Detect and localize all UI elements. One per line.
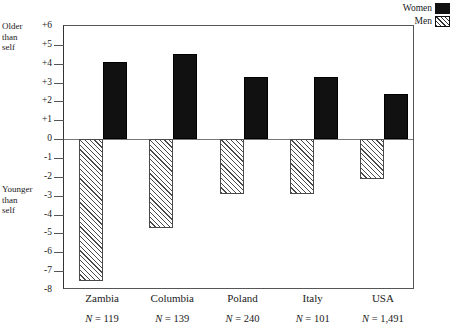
- x-axis-category-label: Italy: [274, 292, 352, 305]
- x-axis-category-label: USA: [344, 292, 422, 305]
- y-axis-tick-label: +4: [26, 59, 52, 69]
- y-axis-tick: [54, 83, 64, 84]
- y-axis-tick: [54, 64, 64, 65]
- legend-item-women: Women: [370, 2, 450, 14]
- bar-women-poland: [244, 77, 268, 139]
- y-axis-tick: [54, 139, 64, 140]
- x-axis-group-usa: USAN = 1,491: [344, 292, 422, 325]
- y-axis-tick-label: +1: [26, 115, 52, 125]
- y-axis-tick-label: +5: [26, 40, 52, 50]
- x-axis-category-label: Zambia: [63, 292, 141, 305]
- y-axis-tick-label: -4: [26, 210, 52, 220]
- x-axis-group-zambia: ZambiaN = 119: [63, 292, 141, 325]
- y-axis-tick-label: -6: [26, 247, 52, 257]
- bar-women-zambia: [103, 62, 127, 139]
- legend-label-men: Men: [415, 16, 432, 26]
- y-axis-tick-label: -8: [26, 285, 52, 295]
- bar-men-usa: [360, 139, 384, 179]
- y-axis-tick-label: +3: [26, 78, 52, 88]
- x-axis-category-label: Poland: [204, 292, 282, 305]
- x-axis-sample-size-label: N = 240: [204, 312, 282, 325]
- y-axis-tick-label: -7: [26, 266, 52, 276]
- hatched-swatch-icon: [435, 16, 450, 27]
- y-axis-tick-label: -5: [26, 228, 52, 238]
- x-axis-group-poland: PolandN = 240: [204, 292, 282, 325]
- y-axis-tick-label: -2: [26, 172, 52, 182]
- bar-men-poland: [220, 139, 244, 194]
- x-axis-sample-size-label: N = 101: [274, 312, 352, 325]
- solid-swatch-icon: [435, 3, 450, 14]
- y-axis-tick-label: +6: [26, 21, 52, 31]
- legend-label-women: Women: [403, 3, 432, 13]
- bar-men-italy: [290, 139, 314, 194]
- bar-men-columbia: [149, 139, 173, 228]
- y-axis-tick: [54, 101, 64, 102]
- y-axis-tick: [54, 45, 64, 46]
- y-axis-tick: [54, 196, 64, 197]
- bar-women-usa: [384, 94, 408, 139]
- bar-men-zambia: [79, 139, 103, 280]
- y-axis-tick: [54, 271, 64, 272]
- y-axis-tick: [54, 252, 64, 253]
- y-axis-tick: [54, 233, 64, 234]
- y-axis-tick-label: +2: [26, 96, 52, 106]
- y-axis-tick: [54, 120, 64, 121]
- y-axis-tick-label: -3: [26, 191, 52, 201]
- x-axis-sample-size-label: N = 1,491: [344, 312, 422, 325]
- x-axis-group-columbia: ColumbiaN = 139: [133, 292, 211, 325]
- chart-plot-area: +6+5+4+3+2+10-1-2-3-4-5-6-7-8: [63, 25, 414, 289]
- bar-women-italy: [314, 77, 338, 139]
- y-axis-tick: [54, 158, 64, 159]
- x-axis-sample-size-label: N = 119: [63, 312, 141, 325]
- y-axis-tick-label: -1: [26, 153, 52, 163]
- x-axis-category-label: Columbia: [133, 292, 211, 305]
- y-axis-tick: [54, 177, 64, 178]
- x-axis-group-italy: ItalyN = 101: [274, 292, 352, 325]
- y-axis-tick: [54, 215, 64, 216]
- x-axis-sample-size-label: N = 139: [133, 312, 211, 325]
- bar-women-columbia: [173, 54, 197, 139]
- y-axis-tick-label: 0: [26, 134, 52, 144]
